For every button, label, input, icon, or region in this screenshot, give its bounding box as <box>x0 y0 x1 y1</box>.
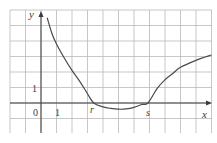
y-axis-arrow-icon <box>39 11 44 17</box>
x-tick-label-1: 1 <box>55 107 60 118</box>
grid-lines <box>10 10 212 133</box>
root-label-r: r <box>90 104 94 115</box>
function-graph: y x 0 1 1 r s <box>0 0 217 143</box>
y-tick-label-1: 1 <box>32 83 37 94</box>
root-label-s: s <box>146 107 150 118</box>
x-axis-label: x <box>201 108 207 120</box>
y-axis-label: y <box>28 8 34 20</box>
origin-label: 0 <box>33 107 38 118</box>
